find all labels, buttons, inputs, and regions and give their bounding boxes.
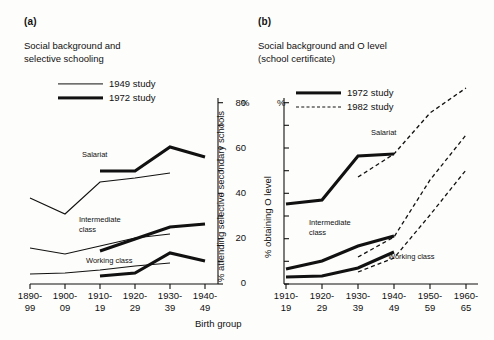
chart-canvas: [0, 0, 494, 340]
figure-root: (a) Social background and selective scho…: [0, 0, 494, 340]
panel-b-series: [286, 88, 466, 277]
panel-b-axes: [284, 98, 478, 289]
panel-b-yticks: [284, 103, 289, 284]
series-b-working-1982: [358, 170, 466, 272]
series-b-salariat-1972: [286, 154, 394, 204]
series-b-salariat-1982: [358, 88, 466, 177]
panel-a-xticks: [30, 284, 205, 289]
series-a-salariat-1972: [100, 147, 205, 171]
series-a-salariat-1949: [30, 173, 170, 214]
series-b-intermediate-1982: [358, 135, 466, 257]
panel-a-yticks: [218, 103, 223, 284]
series-a-working-1972: [100, 253, 205, 276]
panel-a-series: [30, 147, 205, 276]
panel-a-axes: [30, 98, 223, 289]
series-a-intermediate-1972: [100, 224, 205, 251]
panel-b-xticks: [286, 284, 466, 289]
